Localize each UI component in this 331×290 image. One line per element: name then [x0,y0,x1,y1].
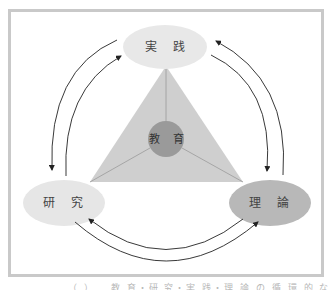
arrow-theory-to-practice [216,41,284,175]
arrow-practice-to-research [52,40,117,170]
node-theory: 理 論 [229,180,311,226]
center-label: 教 育 [149,132,190,146]
figure-caption: （ ） 教 育・研 究・実 践・理 論 の 循 環 的 な 関 係 [0,281,331,290]
node-research: 研 究 [23,180,105,226]
node-theory-label: 理 論 [249,195,295,210]
node-practice: 実 践 [123,25,207,69]
caption-text: （ ） 教 育・研 究・実 践・理 論 の 循 環 的 な 関 係 [68,281,331,290]
education-cycle-diagram: 教 育 実 践 研 究 理 論 [0,0,331,290]
arrow-theory-to-research [89,219,243,250]
node-practice-label: 実 践 [145,39,191,54]
node-research-label: 研 究 [43,195,89,210]
